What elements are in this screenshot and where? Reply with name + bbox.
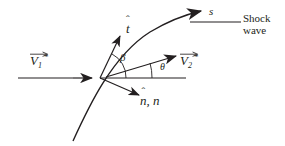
v2-subscript: 2 xyxy=(188,61,192,70)
t-hat-group: ˆ t xyxy=(126,20,130,36)
vector-arrow-accent-icon xyxy=(180,51,198,56)
deflection-angle-label: θ xyxy=(160,62,165,72)
tangent-unit-vector-label: ˆ t xyxy=(126,20,130,36)
v1-vector-group: V1* xyxy=(30,52,48,70)
downstream-velocity-arrow xyxy=(106,56,176,77)
v2-vector-group: V2* xyxy=(180,52,198,70)
n-plain-symbol: n xyxy=(153,93,160,108)
v1-subscript: 1 xyxy=(38,61,42,70)
n-hat-group: ˆ n xyxy=(140,92,147,108)
shock-wave-curve xyxy=(73,11,201,141)
wave-angle-label: β xyxy=(120,52,125,63)
arclength-coordinate-label: s xyxy=(209,6,213,17)
hat-accent-icon: ˆ xyxy=(126,14,130,25)
theta-angle-arc xyxy=(150,63,152,78)
shock-wave-caption-line1: Shock xyxy=(243,12,285,24)
vector-arrow-accent-icon xyxy=(30,51,48,56)
upstream-velocity-label: V1* xyxy=(30,52,48,70)
shock-wave-caption: Shock wave xyxy=(243,12,285,36)
shock-wave-figure: V1* V2* ˆ t ˆ n , n β θ s Shock wave xyxy=(0,0,285,146)
shock-wave-caption-line2: wave xyxy=(243,24,285,36)
hat-accent-icon: ˆ xyxy=(141,86,145,97)
normal-unit-vector-label: ˆ n , n xyxy=(140,92,160,108)
normal-unit-vector-arrow xyxy=(100,78,139,95)
downstream-velocity-label: V2* xyxy=(180,52,198,70)
